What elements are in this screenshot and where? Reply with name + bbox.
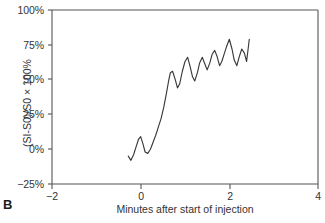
- x-axis-title: Minutes after start of injection: [52, 203, 318, 215]
- y-tick-label-neg25: −25%: [4, 178, 44, 190]
- data-curve: [128, 39, 249, 160]
- y-tick-label-100: 100%: [8, 4, 44, 16]
- y-tick-marks: [48, 10, 52, 184]
- x-tick-label-neg2: −2: [46, 190, 58, 202]
- x-tick-marks: [52, 184, 318, 189]
- x-tick-label-2: 2: [227, 190, 233, 202]
- y-axis-title: (SI-S0)/S0 × 100%: [21, 28, 33, 178]
- figure-panel-b: 100% 75% 50% 25% 0% −25% −2 0 2 4 (SI-S0…: [0, 0, 325, 223]
- x-tick-label-4: 4: [315, 190, 321, 202]
- panel-label: B: [3, 198, 12, 211]
- axis-frame: [52, 10, 318, 184]
- x-tick-label-0: 0: [138, 190, 144, 202]
